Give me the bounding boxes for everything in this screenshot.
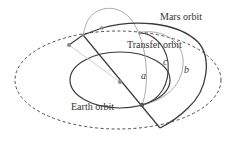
earth-orbit-label: Earth orbit: [71, 101, 114, 112]
transfer-orbit-label: Transfer orbit: [127, 39, 182, 50]
perihelion-dot: [140, 103, 144, 107]
sun-center-dot: [118, 80, 122, 84]
mars-start-dot: [81, 33, 84, 36]
curve-c-label: c: [163, 56, 168, 67]
orbit-diagram: Mars orbit Transfer orbit c b a Earth or…: [0, 0, 234, 141]
gray-point-dot: [67, 43, 71, 47]
curve-b-label: b: [184, 64, 189, 75]
mars-orbit-label: Mars orbit: [160, 11, 202, 22]
curve-a-label: a: [141, 70, 146, 81]
light-radius-line: [69, 45, 120, 82]
upper-point-dot: [100, 26, 104, 30]
transfer-top-dot: [139, 32, 142, 35]
